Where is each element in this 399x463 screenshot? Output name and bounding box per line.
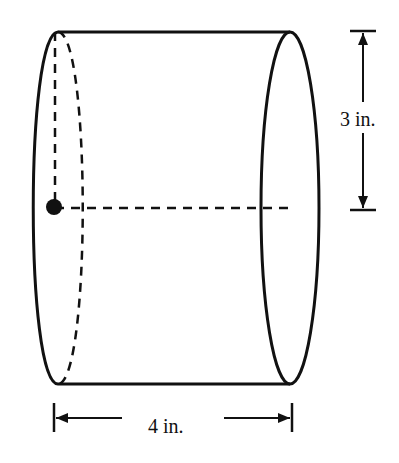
- radius-dimension: 3 in.: [340, 31, 376, 210]
- length-label: 4 in.: [148, 415, 184, 437]
- center-point: [46, 199, 62, 215]
- radius-label: 3 in.: [340, 108, 376, 130]
- cylinder-diagram: 3 in. 4 in.: [0, 0, 399, 463]
- length-dimension: 4 in.: [54, 403, 292, 437]
